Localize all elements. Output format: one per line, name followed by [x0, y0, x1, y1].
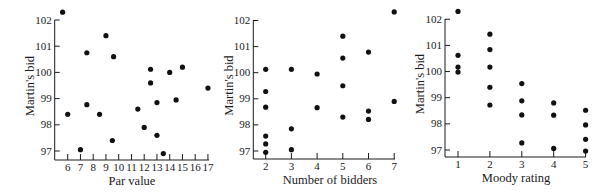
data-point: [263, 89, 268, 94]
x-tick-label: 15: [177, 161, 189, 173]
data-point: [340, 55, 345, 60]
data-point: [583, 137, 588, 142]
data-point: [583, 108, 588, 113]
data-point: [366, 108, 371, 113]
chart-par-value: Martin's bid Par value 97989910010110267…: [23, 10, 214, 188]
scatter-figure: Martin's bid Par value 97989910010110267…: [0, 0, 613, 193]
x-tick-label: 16: [190, 161, 202, 173]
y-tick-label: 99: [239, 92, 251, 104]
x-tick-label: 5: [583, 158, 589, 170]
data-point: [519, 112, 524, 117]
data-point: [455, 65, 460, 70]
x-axis-title: Number of bidders: [283, 173, 378, 187]
x-tick-label: 13: [151, 161, 163, 173]
x-axis-title: Par value: [109, 174, 156, 188]
data-point: [392, 99, 397, 104]
data-point: [142, 125, 147, 130]
data-point: [551, 146, 556, 151]
data-point: [455, 69, 460, 74]
data-point: [167, 70, 172, 75]
data-point: [84, 50, 89, 55]
data-point: [154, 133, 159, 138]
data-point: [263, 134, 268, 139]
data-point: [263, 141, 268, 146]
data-point: [583, 122, 588, 127]
data-point: [551, 113, 556, 118]
data-point: [154, 100, 159, 105]
x-tick-label: 3: [519, 158, 525, 170]
scatter-plots-svg: Martin's bid Par value 97989910010110267…: [0, 0, 613, 193]
y-tick-label: 98: [431, 117, 443, 129]
x-tick-label: 11: [126, 161, 137, 173]
x-tick-label: 9: [103, 161, 109, 173]
x-tick-label: 2: [487, 158, 493, 170]
y-tick-label: 100: [234, 66, 251, 78]
data-point: [519, 140, 524, 145]
data-point: [148, 80, 153, 85]
y-tick-label: 102: [234, 14, 251, 26]
x-tick-label: 14: [164, 161, 176, 173]
data-point: [111, 54, 116, 59]
data-point: [148, 67, 153, 72]
y-tick-label: 99: [41, 92, 53, 104]
y-tick-label: 102: [426, 13, 443, 25]
y-tick-label: 99: [431, 91, 443, 103]
data-point: [455, 9, 460, 14]
y-tick-label: 101: [234, 40, 251, 52]
data-point: [392, 9, 397, 14]
y-tick-label: 97: [431, 144, 443, 156]
data-point: [84, 102, 89, 107]
y-tick-label: 98: [239, 118, 251, 130]
data-point: [455, 53, 460, 58]
data-point: [583, 148, 588, 153]
data-point: [340, 34, 345, 39]
y-axis-title: Martin's bid: [222, 55, 236, 116]
data-point: [340, 83, 345, 88]
data-point: [551, 100, 556, 105]
data-point: [487, 102, 492, 107]
data-point: [263, 150, 268, 155]
data-point: [487, 47, 492, 52]
data-point: [263, 67, 268, 72]
x-tick-label: 6: [65, 161, 71, 173]
x-tick-label: 12: [139, 161, 150, 173]
y-tick-label: 100: [426, 65, 443, 77]
data-point: [205, 86, 210, 91]
data-point: [487, 85, 492, 90]
y-tick-label: 100: [35, 66, 52, 78]
y-tick-label: 101: [426, 39, 443, 51]
data-point: [161, 151, 166, 156]
data-point: [315, 105, 320, 110]
data-point: [519, 98, 524, 103]
data-point: [97, 112, 102, 117]
x-tick-label: 7: [78, 161, 84, 173]
data-point: [340, 114, 345, 119]
data-point: [366, 117, 371, 122]
x-tick-label: 10: [113, 161, 125, 173]
data-point: [289, 67, 294, 72]
data-point: [487, 65, 492, 70]
x-tick-label: 7: [391, 160, 397, 172]
data-point: [180, 65, 185, 70]
x-tick-label: 2: [263, 160, 269, 172]
x-tick-label: 4: [314, 160, 320, 172]
y-axis-title: Martin's bid: [23, 55, 37, 116]
data-point: [315, 71, 320, 76]
data-point: [60, 10, 65, 15]
data-point: [173, 97, 178, 102]
data-point: [110, 138, 115, 143]
y-tick-label: 101: [35, 40, 52, 52]
data-point: [78, 147, 83, 152]
y-tick-label: 97: [239, 145, 251, 157]
data-point: [289, 126, 294, 131]
chart-moody-rating: Martin's bid Moody rating 97989910010110…: [413, 9, 589, 185]
y-axis-title: Martin's bid: [413, 53, 427, 114]
data-point: [366, 49, 371, 54]
chart-number-of-bidders: Martin's bid Number of bidders 979899100…: [222, 9, 397, 187]
x-tick-label: 4: [551, 158, 557, 170]
x-axis-title: Moody rating: [482, 171, 551, 185]
x-tick-label: 3: [289, 160, 295, 172]
data-point: [519, 81, 524, 86]
y-tick-label: 98: [41, 118, 53, 130]
data-point: [65, 112, 70, 117]
